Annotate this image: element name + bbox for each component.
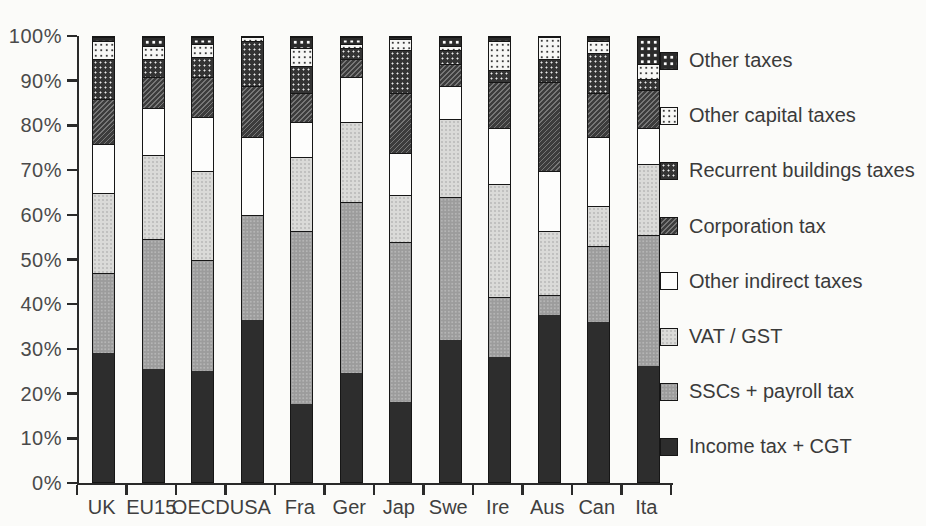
y-label-10pct: 10% — [2, 427, 62, 450]
bar-fra — [290, 36, 313, 483]
legend-label-other_capital: Other capital taxes — [689, 104, 856, 127]
segment-other-swe — [440, 37, 461, 46]
legend-label-other: Other taxes — [689, 49, 792, 72]
segment-other_indirect-oecd — [192, 117, 213, 170]
x-tick-8 — [472, 485, 475, 495]
bar-swe — [439, 36, 462, 483]
segment-vat-ger — [341, 122, 362, 202]
segment-vat-jap — [390, 195, 411, 242]
y-tick-90pct — [67, 79, 77, 82]
legend-swatch-income-icon — [660, 438, 678, 456]
segment-vat-ire — [489, 184, 510, 297]
y-tick-50pct — [67, 258, 77, 261]
legend-label-vat: VAT / GST — [689, 325, 782, 348]
y-tick-30pct — [67, 348, 77, 351]
legend-label-other_indirect: Other indirect taxes — [689, 270, 862, 293]
segment-ssc-aus — [539, 295, 560, 315]
segment-vat-can — [588, 206, 609, 246]
segment-income-ita — [638, 366, 659, 482]
segment-ssc-ire — [489, 297, 510, 357]
segment-corporation-eu15 — [143, 77, 164, 108]
segment-other-fra — [291, 37, 312, 48]
bar-uk — [92, 36, 115, 483]
segment-other_indirect-usa — [242, 137, 263, 215]
segment-ssc-fra — [291, 231, 312, 405]
segment-vat-fra — [291, 157, 312, 230]
y-label-80pct: 80% — [2, 114, 62, 137]
segment-other_indirect-can — [588, 137, 609, 206]
segment-recurrent_buildings-swe — [440, 50, 461, 63]
legend-item-recurrent_buildings: Recurrent buildings taxes — [660, 143, 915, 198]
legend-item-vat: VAT / GST — [660, 309, 915, 364]
legend-swatch-vat-icon — [660, 328, 678, 346]
stacked-bar-chart: 0%10%20%30%40%50%60%70%80%90%100% UKEU15… — [0, 0, 926, 526]
segment-corporation-oecd — [192, 77, 213, 117]
segment-recurrent_buildings-usa — [242, 41, 263, 86]
segment-recurrent_buildings-oecd — [192, 57, 213, 77]
y-tick-40pct — [67, 303, 77, 306]
bar-ire — [488, 36, 511, 483]
x-tick-12 — [670, 485, 673, 495]
segment-ssc-can — [588, 246, 609, 322]
segment-recurrent_buildings-jap — [390, 50, 411, 92]
segment-income-oecd — [192, 371, 213, 482]
segment-other_capital-jap — [390, 39, 411, 50]
segment-vat-eu15 — [143, 155, 164, 240]
segment-income-eu15 — [143, 369, 164, 482]
y-tick-20pct — [67, 392, 77, 395]
segment-other_capital-uk — [93, 41, 114, 59]
y-label-30pct: 30% — [2, 338, 62, 361]
legend-label-ssc: SSCs + payroll tax — [689, 380, 854, 403]
segment-corporation-swe — [440, 64, 461, 86]
x-tick-9 — [521, 485, 524, 495]
segment-ssc-swe — [440, 197, 461, 339]
x-tick-10 — [571, 485, 574, 495]
legend-swatch-other_indirect-icon — [660, 272, 678, 290]
legend-swatch-other-icon — [660, 52, 678, 70]
x-tick-11 — [620, 485, 623, 495]
segment-recurrent_buildings-aus — [539, 59, 560, 81]
segment-ssc-uk — [93, 273, 114, 353]
segment-other_capital-ire — [489, 41, 510, 70]
segment-recurrent_buildings-ita — [638, 79, 659, 90]
y-tick-70pct — [67, 169, 77, 172]
segment-other_capital-eu15 — [143, 46, 164, 59]
y-label-50pct: 50% — [2, 249, 62, 272]
segment-recurrent_buildings-ire — [489, 70, 510, 81]
segment-other-ger — [341, 37, 362, 44]
x-tick-7 — [422, 485, 425, 495]
segment-other_capital-can — [588, 41, 609, 52]
segment-recurrent_buildings-uk — [93, 59, 114, 99]
legend-label-income: Income tax + CGT — [689, 435, 852, 458]
segment-income-fra — [291, 404, 312, 482]
segment-recurrent_buildings-eu15 — [143, 59, 164, 77]
segment-ssc-ger — [341, 202, 362, 373]
bar-jap — [389, 36, 412, 483]
segment-ssc-eu15 — [143, 239, 164, 368]
legend-item-corporation: Corporation tax — [660, 199, 915, 254]
segment-other_capital-aus — [539, 37, 560, 59]
y-label-60pct: 60% — [2, 204, 62, 227]
segment-vat-ita — [638, 164, 659, 235]
y-label-90pct: 90% — [2, 70, 62, 93]
segment-other_indirect-uk — [93, 144, 114, 193]
plot-area — [77, 36, 673, 485]
segment-ssc-oecd — [192, 260, 213, 371]
segment-vat-swe — [440, 119, 461, 197]
segment-other_indirect-fra — [291, 122, 312, 158]
segment-other_capital-ita — [638, 64, 659, 80]
segment-income-ger — [341, 373, 362, 482]
segment-ssc-jap — [390, 242, 411, 402]
segment-corporation-ita — [638, 90, 659, 128]
legend-item-income: Income tax + CGT — [660, 419, 915, 474]
segment-corporation-ire — [489, 82, 510, 129]
segment-income-swe — [440, 340, 461, 482]
segment-corporation-aus — [539, 82, 560, 171]
legend-swatch-recurrent_buildings-icon — [660, 162, 678, 180]
x-tick-1 — [125, 485, 128, 495]
segment-recurrent_buildings-can — [588, 53, 609, 93]
segment-other-eu15 — [143, 37, 164, 46]
segment-recurrent_buildings-ger — [341, 48, 362, 59]
x-tick-5 — [323, 485, 326, 495]
y-label-40pct: 40% — [2, 293, 62, 316]
